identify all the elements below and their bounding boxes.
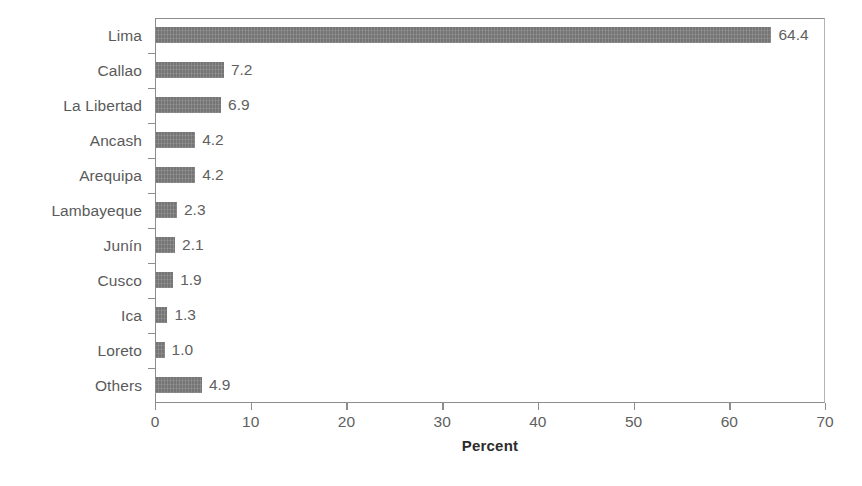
bar-row: 4.9	[155, 368, 825, 402]
category-tick	[148, 193, 155, 194]
category-label: Loreto	[0, 343, 142, 359]
bar-value-label: 4.9	[209, 375, 231, 395]
bar-value-label: 2.1	[182, 235, 204, 255]
bar-row: 4.2	[155, 158, 825, 192]
bar-value-label: 2.3	[184, 200, 206, 220]
category-label: Cusco	[0, 273, 142, 289]
bar	[155, 27, 771, 43]
bar-row: 1.0	[155, 333, 825, 367]
bar	[155, 62, 224, 78]
category-tick	[148, 158, 155, 159]
bar-row: 2.3	[155, 193, 825, 227]
bar-value-label: 1.3	[174, 305, 196, 325]
bar-chart: LimaCallaoLa LibertadAncashArequipaLamba…	[0, 0, 862, 486]
value-tick-label: 20	[338, 412, 355, 431]
category-label: Others	[0, 378, 142, 394]
bar-row: 6.9	[155, 88, 825, 122]
category-label: Junín	[0, 238, 142, 254]
bar-row: 64.4	[155, 18, 825, 52]
category-tick	[148, 228, 155, 229]
category-label: La Libertad	[0, 98, 142, 114]
category-label: Arequipa	[0, 168, 142, 184]
value-tick	[634, 403, 635, 410]
category-tick	[148, 123, 155, 124]
category-tick	[148, 333, 155, 334]
bar	[155, 342, 165, 358]
value-tick	[155, 403, 156, 410]
bar	[155, 132, 195, 148]
category-label: Lima	[0, 28, 142, 44]
value-tick	[825, 403, 826, 410]
bar	[155, 307, 167, 323]
bar-row: 2.1	[155, 228, 825, 262]
value-tick-label: 50	[625, 412, 642, 431]
x-axis-title: Percent	[155, 437, 825, 454]
category-axis-labels: LimaCallaoLa LibertadAncashArequipaLamba…	[0, 18, 142, 393]
value-tick-label: 30	[434, 412, 451, 431]
bar-row: 7.2	[155, 53, 825, 87]
bar	[155, 167, 195, 183]
bar-value-label: 64.4	[778, 25, 808, 45]
bar-row: 1.9	[155, 263, 825, 297]
category-tick	[148, 298, 155, 299]
bar	[155, 237, 175, 253]
category-tick	[148, 88, 155, 89]
value-tick-label: 70	[816, 412, 833, 431]
value-tick-label: 60	[721, 412, 738, 431]
bar	[155, 377, 202, 393]
bar	[155, 272, 173, 288]
value-tick	[251, 403, 252, 410]
value-tick-label: 40	[529, 412, 546, 431]
category-label: Ancash	[0, 133, 142, 149]
bar-value-label: 1.9	[180, 270, 202, 290]
bars-layer: 64.47.26.94.24.22.32.11.91.31.04.9	[155, 18, 825, 403]
bar-value-label: 4.2	[202, 130, 224, 150]
bar-row: 4.2	[155, 123, 825, 157]
bar	[155, 202, 177, 218]
bar	[155, 97, 221, 113]
bar-value-label: 6.9	[228, 95, 250, 115]
value-tick	[729, 403, 730, 410]
category-tick	[148, 368, 155, 369]
value-tick-label: 0	[151, 412, 160, 431]
bar-value-label: 1.0	[172, 340, 194, 360]
value-tick-label: 10	[242, 412, 259, 431]
category-label: Ica	[0, 308, 142, 324]
bar-row: 1.3	[155, 298, 825, 332]
category-label: Lambayeque	[0, 203, 142, 219]
bar-value-label: 7.2	[231, 60, 253, 80]
category-label: Callao	[0, 63, 142, 79]
value-tick	[538, 403, 539, 410]
category-tick	[148, 53, 155, 54]
value-tick	[346, 403, 347, 410]
category-tick	[148, 263, 155, 264]
value-tick	[442, 403, 443, 410]
bar-value-label: 4.2	[202, 165, 224, 185]
